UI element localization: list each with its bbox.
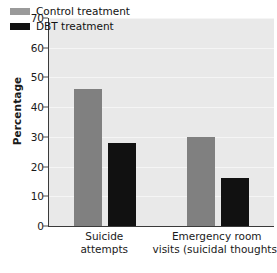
bar-control-group-2 xyxy=(187,137,215,226)
legend-label: Control treatment xyxy=(36,6,130,17)
legend-swatch-icon-control xyxy=(10,8,30,15)
bar-chart-figure: Percentage 706050403020100 Control treat… xyxy=(0,0,277,273)
figure-caption xyxy=(14,266,264,273)
gridline xyxy=(49,48,274,49)
y-tick-label: 20 xyxy=(20,161,44,173)
bar-dbt-group-1 xyxy=(108,143,136,226)
legend-item-control: Control treatment xyxy=(10,5,130,18)
x-category-label-2: Emergency roomvisits (suicidal thoughts) xyxy=(127,230,277,255)
legend-swatch-icon-dbt xyxy=(10,23,30,30)
x-category-label-line: Emergency room xyxy=(127,230,277,243)
bar-dbt-group-2 xyxy=(221,178,249,226)
x-category-label-line: visits (suicidal thoughts) xyxy=(127,243,277,256)
plot-area xyxy=(48,18,274,227)
y-tick-label: 40 xyxy=(20,101,44,113)
legend-item-dbt: DBT treatment xyxy=(10,20,130,33)
y-tick-label: 10 xyxy=(20,190,44,202)
y-tick-label: 30 xyxy=(20,131,44,143)
bar-control-group-1 xyxy=(74,89,102,226)
chart-legend: Control treatmentDBT treatment xyxy=(10,5,130,33)
y-tick-label: 50 xyxy=(20,71,44,83)
gridline xyxy=(49,77,274,78)
legend-label: DBT treatment xyxy=(36,21,114,32)
y-tick-label: 60 xyxy=(20,42,44,54)
